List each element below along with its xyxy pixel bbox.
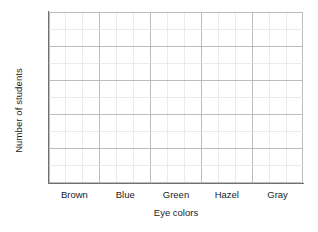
blank-bar-chart-grid: Number of students BrownBlueGreenHazelGr…	[0, 0, 318, 232]
x-axis-category-label: Brown	[49, 188, 100, 202]
x-axis-category-labels: BrownBlueGreenHazelGray	[49, 188, 303, 202]
x-axis-category-label: Green	[151, 188, 202, 202]
y-axis-title-text: Number of students	[13, 68, 24, 153]
x-axis-category-label: Hazel	[201, 188, 252, 202]
y-axis-title: Number of students	[11, 40, 25, 180]
x-axis-title: Eye colors	[49, 207, 303, 218]
grid-lines	[49, 12, 303, 183]
x-axis-category-label: Gray	[252, 188, 303, 202]
plot-area	[49, 12, 303, 183]
x-axis-category-label: Blue	[100, 188, 151, 202]
